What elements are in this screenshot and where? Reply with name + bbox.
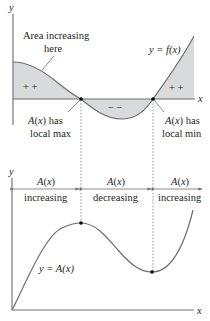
local-max-label-line2: local max: [30, 128, 72, 139]
local-min-leader: [154, 100, 164, 112]
A-curve-label: y = A(x): [38, 263, 74, 275]
top-x-axis-label: x: [197, 93, 203, 104]
interval-1-bottom: increasing: [24, 192, 68, 203]
top-graph: y x Area increasing here y = f(x) + + − …: [8, 2, 203, 139]
interval-2-top: A(x): [106, 176, 126, 188]
interval-3-bottom: increasing: [158, 192, 202, 203]
negative-signs: − −: [108, 102, 123, 113]
area-increasing-label-line2: here: [44, 43, 62, 54]
bottom-y-axis-label: y: [8, 166, 14, 177]
bottom-x-axis-label: x: [196, 305, 202, 316]
local-max-label-line1: A(x) has: [27, 115, 63, 127]
bottom-graph: y x A(x) increasing A(x) decreasing A(x)…: [8, 166, 202, 316]
fundamental-theorem-diagram: y x Area increasing here y = f(x) + + − …: [0, 0, 210, 321]
f-curve-label: y = f(x): [148, 44, 181, 56]
A-local-min-point: [150, 270, 154, 274]
local-min-label-line2: local min: [162, 128, 202, 139]
interval-2-bottom: decreasing: [93, 192, 139, 203]
A-curve: [12, 210, 193, 310]
top-y-axis-label: y: [8, 2, 14, 13]
interval-3-top: A(x): [170, 176, 190, 188]
positive-signs-right: + +: [169, 82, 184, 93]
local-min-label-line1: A(x) has: [164, 115, 200, 127]
interval-1-top: A(x): [36, 176, 56, 188]
positive-signs-left: + +: [23, 81, 38, 92]
A-local-max-point: [79, 221, 83, 225]
area-increasing-label-line1: Area increasing: [23, 30, 90, 41]
local-max-leader: [68, 100, 80, 112]
area-leader-line: [42, 56, 54, 70]
